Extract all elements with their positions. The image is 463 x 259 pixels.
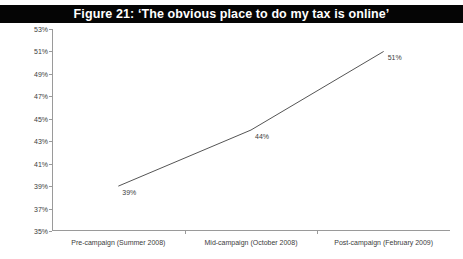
y-tick-label: 53% — [34, 26, 48, 33]
plot-area: 35%37%39%41%43%45%47%49%51%53% Pre-campa… — [52, 29, 450, 231]
y-tick-label: 39% — [34, 183, 48, 190]
data-point-label: 44% — [255, 133, 269, 140]
data-point-label: 51% — [388, 54, 402, 61]
figure-title: Figure 21: ‘The obvious place to do my t… — [74, 7, 390, 21]
y-tick-label: 45% — [34, 115, 48, 122]
y-tick-label: 41% — [34, 160, 48, 167]
x-category-label: Post-campaign (February 2009) — [334, 239, 433, 246]
y-tick-label: 37% — [34, 205, 48, 212]
chart-figure: Figure 21: ‘The obvious place to do my t… — [0, 0, 463, 259]
y-tick-label: 47% — [34, 93, 48, 100]
y-tick-label: 43% — [34, 138, 48, 145]
y-tick-label: 35% — [34, 228, 48, 235]
series-polyline — [118, 51, 383, 186]
y-tick-mark — [49, 231, 52, 232]
data-point-label: 39% — [122, 189, 136, 196]
x-category-label: Pre-campaign (Summer 2008) — [71, 239, 165, 246]
y-tick-label: 49% — [34, 70, 48, 77]
figure-title-bar: Figure 21: ‘The obvious place to do my t… — [0, 5, 463, 23]
x-category-label: Mid-campaign (October 2008) — [205, 239, 298, 246]
y-tick-label: 51% — [34, 48, 48, 55]
